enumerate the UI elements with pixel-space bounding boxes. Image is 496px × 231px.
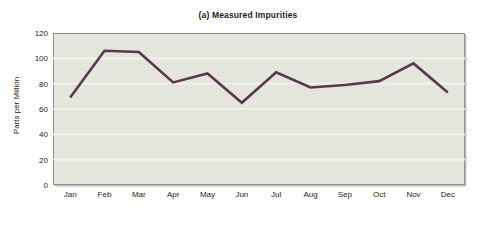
y-axis-tick-labels: 020406080100120 <box>0 33 48 185</box>
y-tick-label: 60 <box>4 105 48 114</box>
y-tick-label: 80 <box>4 79 48 88</box>
y-tick-label: 20 <box>4 155 48 164</box>
y-tick-label: 100 <box>4 54 48 63</box>
chart-title: (a) Measured Impurities <box>0 10 496 20</box>
line-series-svg <box>53 33 465 185</box>
y-tick-label: 40 <box>4 130 48 139</box>
plot-region <box>53 33 465 185</box>
x-axis-tick-labels: JanFebMarAprMayJunJulAugSepOctNovDec <box>53 190 465 204</box>
y-tick-label: 0 <box>4 181 48 190</box>
gridlines <box>53 58 465 159</box>
y-tick-label: 120 <box>4 29 48 38</box>
chart-figure: (a) Measured Impurities Parts per Millio… <box>0 0 496 231</box>
x-tick-label: Dec <box>428 190 468 199</box>
